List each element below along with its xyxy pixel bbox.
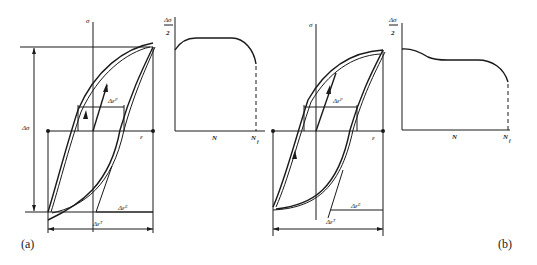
- epsilon-label-a: ε: [140, 133, 143, 141]
- amplitude-x-label-a: N: [211, 134, 218, 142]
- arrow-up-icon: [326, 85, 331, 94]
- stress-amplitude-curve-a: [175, 38, 256, 64]
- panel-b-hysteresis: σ ε Δεᴾ Δεᴱ Δεᵀ (b): [271, 21, 512, 251]
- amplitude-y-num-b: Δσ: [388, 16, 397, 24]
- panel-b-amplitude-plot: Δσ 2 N N f: [388, 16, 512, 143]
- amplitude-y-den-a: 2: [165, 29, 170, 37]
- fatigue-hysteresis-figure: σ ε Δσ Δεᴾ Δεᴱ: [0, 0, 537, 265]
- amplitude-y-num-a: Δσ: [163, 16, 172, 24]
- elastic-strain-label-b: Δεᴱ: [350, 202, 361, 210]
- loading-branch-outer-a: [48, 43, 153, 212]
- plastic-strain-label-b: Δεᴾ: [332, 97, 343, 105]
- stress-range-label-a: Δσ: [21, 124, 30, 132]
- elastic-slope-line-a: [96, 166, 112, 212]
- stress-amplitude-curve-b: [402, 49, 508, 82]
- amplitude-x-label-b: N: [451, 133, 458, 141]
- unloading-branch-inner-a: [52, 47, 155, 213]
- panel-label-b: (b): [498, 237, 512, 251]
- total-strain-label-b: Δεᵀ: [325, 218, 336, 226]
- arrow-left-icon: [48, 227, 54, 231]
- total-strain-label-a: Δεᵀ: [92, 220, 103, 228]
- arrow-up-icon: [32, 48, 36, 54]
- amplitude-x-end-sub-a: f: [257, 139, 260, 144]
- panel-label-a: (a): [21, 237, 34, 251]
- amplitude-x-end-b: N: [502, 133, 509, 141]
- amplitude-y-den-b: 2: [390, 29, 395, 37]
- sigma-label-a: σ: [86, 17, 90, 25]
- elastic-strain-label-a: Δεᴱ: [117, 204, 128, 212]
- amplitude-x-end-sub-b: f: [509, 138, 512, 143]
- sigma-label-b: σ: [309, 21, 313, 29]
- loading-branch-inner-a: [51, 47, 150, 212]
- amplitude-x-end-a: N: [250, 134, 257, 142]
- arrow-right-icon: [377, 227, 383, 231]
- arrow-up-icon: [103, 83, 108, 92]
- arrow-down-icon: [32, 205, 36, 211]
- arrow-right-icon: [147, 227, 153, 231]
- panel-a-amplitude-plot: Δσ 2 N N f: [163, 16, 265, 144]
- epsilon-label-b: ε: [372, 134, 375, 142]
- arrow-up-icon: [83, 110, 88, 119]
- plastic-strain-label-a: Δεᴾ: [107, 97, 118, 105]
- arrow-left-icon: [273, 227, 279, 231]
- panel-a-hysteresis: σ ε Δσ Δεᴾ Δεᴱ: [20, 17, 155, 251]
